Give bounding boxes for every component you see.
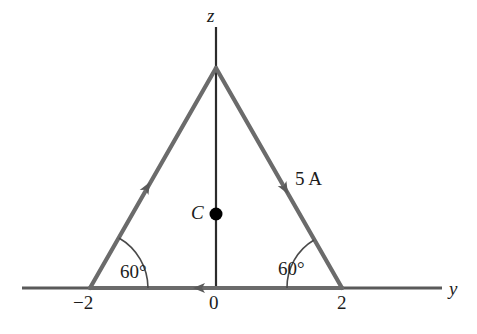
angle-label-right: 60° <box>278 259 305 278</box>
tick-label-origin: 0 <box>209 293 219 312</box>
center-point-label: C <box>191 203 204 222</box>
circuit-figure <box>0 0 477 334</box>
angle-label-left: 60° <box>120 262 147 281</box>
y-axis-label: y <box>449 279 457 298</box>
z-axis-label: z <box>207 6 214 25</box>
center-point-dot <box>210 208 223 221</box>
tick-label-neg-2: −2 <box>73 293 93 312</box>
triangle-right-side <box>216 68 342 288</box>
tick-label-2: 2 <box>337 293 347 312</box>
triangle-left-side <box>90 68 216 288</box>
current-label: 5 A <box>295 169 322 188</box>
